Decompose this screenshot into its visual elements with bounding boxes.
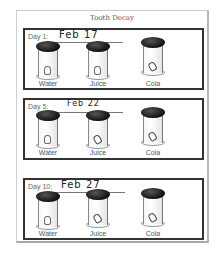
day-panel-3: Day 10: Feb 27 Water Juice Cola (23, 178, 204, 240)
tooth-icon (44, 216, 51, 225)
day-label: Day 1: (28, 33, 48, 40)
juice-cup-icon (86, 189, 110, 229)
juice-cup-icon (86, 110, 110, 150)
water-cup-icon (36, 191, 60, 231)
day-panel-2: Day 5: Feb 22 Water Juice Cola (23, 98, 204, 160)
water-cup-icon (36, 110, 60, 150)
cup-label-water: Water (28, 80, 68, 87)
day-panel-1: Day 1: Feb 17 Water Juice Cola (23, 28, 204, 90)
cup-label-cola: Cola (133, 80, 173, 87)
worksheet-title: Tooth Decay (17, 14, 207, 22)
cup-label-water: Water (28, 230, 68, 237)
cup-label-juice: Juice (78, 149, 118, 156)
cup-label-cola: Cola (133, 230, 173, 237)
water-cup-icon (36, 41, 60, 81)
tooth-icon (44, 135, 51, 144)
day-label: Day 5: (28, 103, 48, 110)
cup-label-cola: Cola (133, 149, 173, 156)
handwritten-date: Feb 22 (67, 99, 100, 108)
cup-label-water: Water (28, 149, 68, 156)
worksheet: Tooth Decay Day 1: Feb 17 Water Juice Co… (16, 10, 209, 243)
tooth-icon (44, 66, 51, 75)
day-label: Day 10: (28, 183, 52, 190)
cup-label-juice: Juice (78, 80, 118, 87)
tooth-icon (94, 66, 101, 75)
juice-cup-icon (86, 41, 110, 81)
cup-label-juice: Juice (78, 230, 118, 237)
cola-cup-icon (141, 37, 165, 77)
handwritten-date: Feb 17 (59, 29, 99, 40)
cola-cup-icon (141, 107, 165, 147)
cola-cup-icon (141, 188, 165, 228)
